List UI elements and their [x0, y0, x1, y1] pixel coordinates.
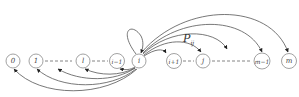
- svg-text:m: m: [286, 57, 293, 65]
- svg-text:i: i: [138, 57, 140, 65]
- edge-label-pij: Pij: [182, 32, 194, 47]
- edge-i-to-m: [142, 15, 288, 53]
- svg-text:1: 1: [34, 57, 38, 65]
- node-j: j: [196, 54, 210, 68]
- edge-i-to-0: [14, 69, 137, 91]
- svg-text:l: l: [82, 57, 84, 65]
- node-0: 0: [6, 54, 20, 68]
- node-i+1: i+1: [167, 54, 182, 69]
- svg-text:0: 0: [11, 57, 16, 65]
- node-i-1: i−1: [110, 54, 125, 69]
- svg-text:i+1: i+1: [169, 58, 180, 65]
- svg-text:i−1: i−1: [112, 58, 123, 65]
- node-i: i: [132, 54, 146, 68]
- edge-i-to-l: [85, 68, 135, 74]
- edge-i-to-1: [37, 69, 136, 85]
- svg-text:m−1: m−1: [255, 58, 270, 65]
- node-1: 1: [29, 54, 43, 68]
- node-m: m: [282, 54, 297, 69]
- node-m-1: m−1: [254, 53, 270, 69]
- markov-chain-diagram: Pij 0 1 l i−1 i i+1 j m−1 m: [0, 0, 299, 97]
- edge-i-self-loop: [127, 29, 143, 54]
- edge-i-to-m-1: [143, 24, 262, 53]
- node-l: l: [76, 54, 90, 68]
